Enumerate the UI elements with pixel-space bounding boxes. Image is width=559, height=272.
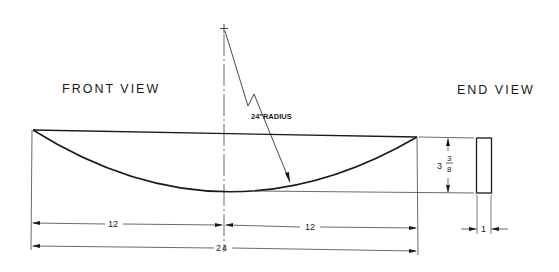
height-dimension: 3 3 8 [437,138,453,193]
front-view-top-edge [33,130,417,137]
radius-leader [225,31,290,182]
arrow-down-icon [446,185,450,193]
arrow-right-icon [409,249,417,253]
radius-arrowhead-icon [285,172,290,183]
extension-line-left [31,130,32,250]
baseline-extension [255,191,474,193]
radius-label: 24"RADIUS [251,112,292,121]
top-extension [419,137,474,138]
arrow-right-icon [469,227,477,231]
half-right-value: 12 [305,222,315,232]
end-view-label: END VIEW [457,83,535,97]
extension-line-right [417,137,418,255]
overall-length-dimension: 24 [32,243,417,253]
arrow-left-icon [225,223,233,227]
arrow-left-icon [491,227,499,231]
arrow-right-icon [215,223,223,227]
overall-length-value: 24 [216,243,228,253]
thickness-dimension: 1 [461,224,508,234]
height-frac-num: 3 [447,154,452,163]
thickness-value: 1 [481,224,486,234]
half-length-dimensions: 12 12 [32,219,417,232]
half-left-value: 12 [108,219,118,229]
end-view-rect [477,138,492,193]
center-mark-icon [220,24,228,33]
technical-drawing: FRONT VIEW END VIEW 24"RADIUS 3 3 8 1 [0,0,559,272]
front-view-arc [33,130,417,192]
arrow-up-icon [446,138,450,146]
height-frac-den: 8 [447,165,452,174]
arrow-right-icon [409,226,417,230]
front-view-label: FRONT VIEW [62,82,160,96]
arrow-left-icon [32,244,40,248]
arrow-left-icon [32,221,40,225]
height-whole: 3 [437,161,442,171]
